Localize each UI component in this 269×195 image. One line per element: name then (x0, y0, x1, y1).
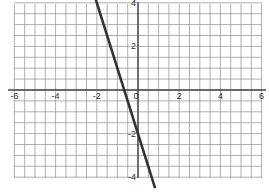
x-tick-label: 6 (259, 91, 264, 101)
y-tick-label: -4 (128, 172, 136, 182)
x-tick-label: 4 (218, 91, 223, 101)
data-line (95, 0, 155, 188)
y-tick-label: -2 (128, 129, 136, 139)
tick-labels: -6-4-2024642-2-4 (10, 0, 264, 182)
chart-plot: -6-4-2024642-2-4 (0, 0, 269, 195)
axes (8, 2, 266, 178)
y-tick-label: 4 (131, 0, 136, 8)
series-line (95, 0, 155, 188)
x-tick-label: 0 (133, 91, 138, 101)
x-tick-label: -2 (93, 91, 101, 101)
x-tick-label: 2 (177, 91, 182, 101)
x-tick-label: -4 (52, 91, 60, 101)
y-tick-label: 2 (131, 41, 136, 51)
x-tick-label: -6 (10, 91, 18, 101)
